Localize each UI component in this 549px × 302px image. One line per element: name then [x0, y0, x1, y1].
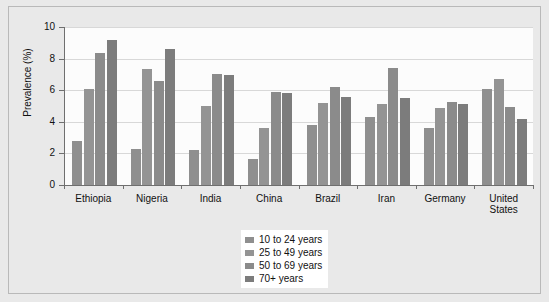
x-tick-mark: [64, 185, 65, 189]
bar: [107, 40, 117, 185]
bar-group: [131, 27, 176, 185]
chart-legend: 10 to 24 years25 to 49 years50 to 69 yea…: [241, 230, 328, 288]
bar: [505, 107, 515, 185]
x-tick-mark: [533, 185, 534, 189]
figure-frame: 0246810 Prevalence (%) EthiopiaNigeriaIn…: [8, 6, 541, 294]
bars-layer: [65, 27, 533, 185]
bar: [388, 68, 398, 185]
x-tick-mark: [181, 185, 182, 189]
y-axis-title: Prevalence (%): [22, 28, 33, 138]
legend-swatch-icon: [245, 276, 254, 282]
bar: [458, 104, 468, 185]
chart-screenshot: 0246810 Prevalence (%) EthiopiaNigeriaIn…: [0, 0, 549, 302]
bar: [435, 108, 445, 185]
y-tick-label: 6: [31, 85, 55, 95]
bar: [84, 89, 94, 185]
x-tick-mark: [299, 185, 300, 189]
bar-group: [482, 27, 527, 185]
y-tick-mark: [59, 90, 64, 91]
bar: [224, 75, 234, 185]
bar: [318, 103, 328, 185]
y-tick-mark: [59, 27, 64, 28]
bar-group: [72, 27, 117, 185]
bar: [212, 74, 222, 185]
legend-swatch-icon: [245, 237, 254, 243]
legend-label: 25 to 49 years: [259, 247, 322, 258]
y-tick-label: 8: [31, 54, 55, 64]
bar: [341, 97, 351, 185]
x-tick-label: China: [240, 193, 299, 204]
bar: [424, 128, 434, 185]
x-tick-mark: [240, 185, 241, 189]
y-tick-label: 4: [31, 117, 55, 127]
bar: [377, 104, 387, 185]
y-tick-mark: [59, 59, 64, 60]
legend-item: 70+ years: [245, 272, 322, 285]
bar: [201, 106, 211, 185]
legend-item: 25 to 49 years: [245, 246, 322, 259]
x-tick-mark: [416, 185, 417, 189]
bar: [482, 89, 492, 185]
x-tick-label: Germany: [416, 193, 475, 204]
bar: [307, 125, 317, 185]
bar: [494, 79, 504, 185]
y-tick-mark: [59, 122, 64, 123]
legend-item: 10 to 24 years: [245, 233, 322, 246]
bar: [517, 119, 527, 185]
bar: [189, 150, 199, 185]
x-tick-label: Iran: [357, 193, 416, 204]
bar: [142, 69, 152, 185]
x-tick-label: India: [181, 193, 240, 204]
x-tick-label: Ethiopia: [64, 193, 123, 204]
bar: [131, 149, 141, 185]
legend-swatch-icon: [245, 263, 254, 269]
bar-group: [189, 27, 234, 185]
bar: [271, 92, 281, 185]
bar: [95, 53, 105, 185]
y-tick-label: 2: [31, 148, 55, 158]
x-tick-mark: [123, 185, 124, 189]
x-tick-label: Brazil: [299, 193, 358, 204]
x-tick-mark: [474, 185, 475, 189]
legend-item: 50 to 69 years: [245, 259, 322, 272]
bar: [330, 87, 340, 185]
bar: [165, 49, 175, 185]
bar: [447, 102, 457, 185]
bar-group: [248, 27, 293, 185]
bar: [400, 98, 410, 185]
legend-label: 10 to 24 years: [259, 234, 322, 245]
bar: [259, 128, 269, 185]
x-tick-label: Nigeria: [123, 193, 182, 204]
bar: [365, 117, 375, 185]
y-tick-mark: [59, 153, 64, 154]
y-tick-label: 0: [31, 180, 55, 190]
x-tick-label: United States: [474, 193, 533, 215]
bar: [154, 81, 164, 185]
bar-group: [365, 27, 410, 185]
legend-label: 70+ years: [259, 273, 303, 284]
bar-group: [307, 27, 352, 185]
bar: [72, 141, 82, 185]
legend-swatch-icon: [245, 250, 254, 256]
bar: [248, 159, 258, 185]
x-tick-mark: [357, 185, 358, 189]
bar: [282, 93, 292, 185]
legend-label: 50 to 69 years: [259, 260, 322, 271]
bar-group: [424, 27, 469, 185]
y-tick-label: 10: [31, 22, 55, 32]
